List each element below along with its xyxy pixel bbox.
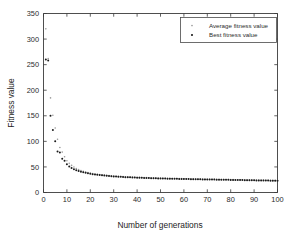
data-point-best-fitness-value: [181, 178, 183, 180]
data-point-best-fitness-value: [234, 179, 236, 181]
data-point-best-fitness-value: [199, 178, 201, 180]
x-tick-label: 0: [41, 195, 45, 204]
data-point-best-fitness-value: [141, 177, 143, 179]
data-point-best-fitness-value: [272, 180, 274, 182]
data-point-best-fitness-value: [204, 178, 206, 180]
data-point-best-fitness-value: [110, 175, 112, 177]
data-point-average-fitness-value: [75, 168, 77, 170]
data-point-best-fitness-value: [178, 178, 180, 180]
data-point-best-fitness-value: [92, 173, 94, 175]
data-point-best-fitness-value: [138, 177, 140, 179]
data-point-best-fitness-value: [239, 179, 241, 181]
x-tick-label: 50: [156, 195, 164, 204]
data-point-best-fitness-value: [66, 163, 68, 165]
fitness-convergence-chart: 0102030405060708090100 05010015020025030…: [0, 0, 300, 238]
data-point-best-fitness-value: [45, 59, 47, 61]
data-point-best-fitness-value: [145, 177, 147, 179]
data-point-best-fitness-value: [155, 177, 157, 179]
data-point-best-fitness-value: [260, 179, 262, 181]
data-point-best-fitness-value: [255, 179, 257, 181]
data-point-best-fitness-value: [206, 179, 208, 181]
y-tick-label: 200: [27, 86, 39, 95]
x-tick-label: 90: [250, 195, 258, 204]
data-point-best-fitness-value: [160, 177, 162, 179]
data-point-best-fitness-value: [80, 171, 82, 173]
y-tick-label: 300: [27, 35, 39, 44]
data-point-average-fitness-value: [64, 156, 66, 158]
data-point-best-fitness-value: [152, 177, 154, 179]
data-point-best-fitness-value: [73, 168, 75, 170]
data-point-average-fitness-value: [61, 151, 63, 153]
x-tick-label: 20: [86, 195, 94, 204]
data-point-best-fitness-value: [277, 180, 279, 182]
data-point-best-fitness-value: [59, 152, 61, 154]
data-point-best-fitness-value: [127, 176, 129, 178]
data-point-best-fitness-value: [176, 178, 178, 180]
chart-legend: Average fitness value Best fitness value: [181, 18, 277, 43]
y-tick-label: 100: [27, 137, 39, 146]
data-point-best-fitness-value: [68, 165, 70, 167]
data-point-average-fitness-value: [66, 160, 68, 162]
data-point-average-fitness-value: [52, 114, 54, 116]
data-point-average-fitness-value: [73, 166, 75, 168]
data-point-best-fitness-value: [124, 176, 126, 178]
data-point-best-fitness-value: [241, 179, 243, 181]
data-point-best-fitness-value: [89, 173, 91, 175]
data-point-best-fitness-value: [115, 176, 117, 178]
data-point-best-fitness-value: [192, 178, 194, 180]
data-point-best-fitness-value: [85, 172, 87, 174]
data-point-best-fitness-value: [47, 60, 49, 62]
data-point-best-fitness-value: [211, 179, 213, 181]
legend-label-average-fitness-value: Average fitness value: [209, 22, 269, 29]
data-point-best-fitness-value: [246, 179, 248, 181]
data-point-best-fitness-value: [71, 167, 73, 169]
data-point-best-fitness-value: [248, 179, 250, 181]
data-point-best-fitness-value: [162, 178, 164, 180]
data-point-best-fitness-value: [218, 179, 220, 181]
data-point-best-fitness-value: [169, 178, 171, 180]
data-point-average-fitness-value: [68, 163, 70, 165]
data-point-best-fitness-value: [197, 178, 199, 180]
data-point-best-fitness-value: [232, 179, 234, 181]
data-point-best-fitness-value: [117, 176, 119, 178]
data-point-best-fitness-value: [122, 176, 124, 178]
legend-label-best-fitness-value: Best fitness value: [209, 31, 258, 38]
data-point-average-fitness-value: [59, 147, 61, 149]
data-point-average-fitness-value: [71, 165, 73, 167]
data-point-best-fitness-value: [96, 174, 98, 176]
data-point-best-fitness-value: [87, 172, 89, 174]
data-point-best-fitness-value: [94, 174, 96, 176]
data-point-best-fitness-value: [195, 178, 197, 180]
x-tick-label: 40: [133, 195, 141, 204]
data-point-best-fitness-value: [131, 176, 133, 178]
data-point-best-fitness-value: [237, 179, 239, 181]
data-point-best-fitness-value: [251, 179, 253, 181]
data-point-best-fitness-value: [267, 180, 269, 182]
data-point-best-fitness-value: [113, 175, 115, 177]
data-point-best-fitness-value: [61, 158, 63, 160]
data-point-best-fitness-value: [190, 178, 192, 180]
data-point-best-fitness-value: [136, 177, 138, 179]
data-point-best-fitness-value: [101, 174, 103, 176]
data-point-best-fitness-value: [50, 115, 52, 117]
data-point-best-fitness-value: [129, 176, 131, 178]
y-axis-title: Fitness value: [6, 78, 16, 128]
y-tick-label: 150: [27, 111, 39, 120]
data-point-best-fitness-value: [143, 177, 145, 179]
data-point-best-fitness-value: [150, 177, 152, 179]
data-point-best-fitness-value: [209, 179, 211, 181]
chart-canvas: 0102030405060708090100 05010015020025030…: [0, 0, 300, 238]
data-point-best-fitness-value: [120, 176, 122, 178]
data-point-best-fitness-value: [167, 178, 169, 180]
x-tick-label: 60: [180, 195, 188, 204]
data-point-best-fitness-value: [220, 179, 222, 181]
x-tick-label: 100: [271, 195, 283, 204]
data-point-best-fitness-value: [262, 179, 264, 181]
y-tick-label: 350: [27, 9, 39, 18]
data-point-best-fitness-value: [106, 175, 108, 177]
data-point-best-fitness-value: [213, 179, 215, 181]
data-point-best-fitness-value: [188, 178, 190, 180]
x-tick-label: 80: [227, 195, 235, 204]
y-tick-label: 250: [27, 60, 39, 69]
data-point-best-fitness-value: [227, 179, 229, 181]
